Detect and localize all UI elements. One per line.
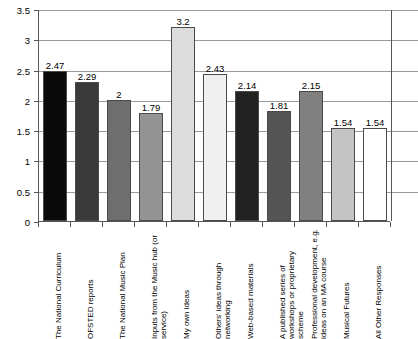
bar: 2.14 [235, 91, 258, 221]
bar-value-label: 2.43 [206, 63, 225, 74]
x-axis-label-slot: OFSTED reports [70, 227, 102, 339]
bar-value-label: 2.14 [238, 80, 257, 91]
x-axis-category-label: Web-based materials [246, 227, 255, 339]
y-tick-label: 0 [0, 217, 30, 228]
bar: 1.81 [267, 111, 290, 221]
bar: 2.43 [203, 74, 226, 221]
x-axis-category-label: My own ideas [182, 227, 191, 339]
x-axis-label-slot: Professional development, e.g. ideas on … [294, 227, 326, 339]
plot-right-border [391, 10, 392, 221]
bar: 1.54 [363, 128, 386, 221]
bar-value-label: 2 [116, 89, 121, 100]
x-axis-label-slot: Musical Futures [326, 227, 358, 339]
bar: 3.2 [171, 27, 194, 221]
bar: 2.15 [299, 91, 322, 221]
bar-value-label: 2.29 [78, 71, 97, 82]
x-axis-label-slot: My own ideas [166, 227, 198, 339]
bar-series: 2.472.2921.793.22.432.141.812.151.541.54 [39, 10, 390, 221]
x-axis-category-label: The National Music Plan [118, 227, 127, 339]
y-tick-label: 2.5 [0, 65, 30, 76]
x-axis-labels: The National CurriculumOFSTED reportsThe… [38, 227, 391, 339]
bar-value-label: 2.47 [46, 60, 65, 71]
bar-value-label: 1.54 [366, 117, 385, 128]
y-tick-label: 3.5 [0, 5, 30, 16]
x-axis-category-label: OFSTED reports [86, 227, 95, 339]
bar-value-label: 3.2 [176, 16, 189, 27]
y-tick-label: 3 [0, 35, 30, 46]
bar-value-label: 1.79 [142, 102, 161, 113]
x-axis-label-slot: All Other Responses [358, 227, 390, 339]
x-axis-label-slot: The National Curriculum [38, 227, 70, 339]
bar-value-label: 1.54 [334, 117, 353, 128]
plot-area: 2.472.2921.793.22.432.141.812.151.541.54 [38, 10, 390, 222]
x-axis-label-slot: A published series of workshops or propr… [262, 227, 294, 339]
x-axis-label-slot: The National Music Plan [102, 227, 134, 339]
bar: 2 [107, 100, 130, 221]
x-axis-category-label: All Other Responses [374, 227, 383, 339]
bar: 1.79 [139, 113, 162, 221]
y-axis: 00.511.522.533.5 [0, 10, 34, 222]
x-axis-category-label: The National Curriculum [54, 227, 63, 339]
x-axis-label-slot: Others' ideas through networking [198, 227, 230, 339]
y-tick-label: 2 [0, 95, 30, 106]
y-tick-label: 0.5 [0, 186, 30, 197]
y-tick-label: 1.5 [0, 126, 30, 137]
bar: 2.47 [43, 71, 66, 221]
x-axis-label-slot: Web-based materials [230, 227, 262, 339]
y-tick-label: 1 [0, 156, 30, 167]
bar-value-label: 1.81 [270, 100, 289, 111]
bar: 1.54 [331, 128, 354, 221]
x-axis-category-label: Musical Futures [342, 227, 351, 339]
bar: 2.29 [75, 82, 98, 221]
bar-value-label: 2.15 [302, 80, 321, 91]
bar-chart: 00.511.522.533.5 2.472.2921.793.22.432.1… [0, 0, 418, 339]
x-axis-label-slot: Inputs from the Music hub (or service) [134, 227, 166, 339]
